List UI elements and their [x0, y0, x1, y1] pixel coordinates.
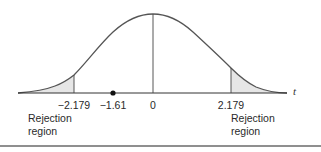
- left-rejection-shade: [18, 75, 74, 93]
- right-rejection-label-line1: Rejection: [231, 112, 275, 125]
- tick-label-right-critical: 2.179: [218, 99, 244, 112]
- right-rejection-shade: [231, 68, 287, 93]
- axis-variable-label: t: [293, 85, 296, 97]
- density-curve: [18, 14, 287, 93]
- right-rejection-label-line2: region: [231, 125, 260, 138]
- test-statistic-point: [110, 90, 115, 95]
- tick-label-test-statistic: −1.61: [100, 99, 127, 112]
- left-rejection-label-line2: region: [28, 125, 57, 138]
- left-rejection-label-line1: Rejection: [28, 112, 72, 125]
- tick-label-left-critical: −2.179: [58, 99, 90, 112]
- tick-label-zero: 0: [150, 99, 156, 112]
